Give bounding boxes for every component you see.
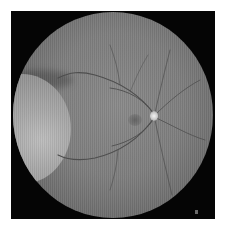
macula bbox=[128, 114, 142, 126]
optic-disc bbox=[150, 111, 158, 121]
blood-vessels bbox=[0, 0, 225, 231]
dust-speck bbox=[195, 210, 198, 214]
